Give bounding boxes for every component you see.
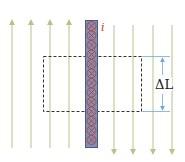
conductor (86, 21, 98, 148)
length-dimension: ΔL (142, 57, 173, 112)
field-lines-upward (12, 22, 69, 148)
length-label: ΔL (155, 77, 173, 92)
diagram-canvas: i ΔL (0, 0, 185, 162)
current-label: i (101, 21, 105, 34)
